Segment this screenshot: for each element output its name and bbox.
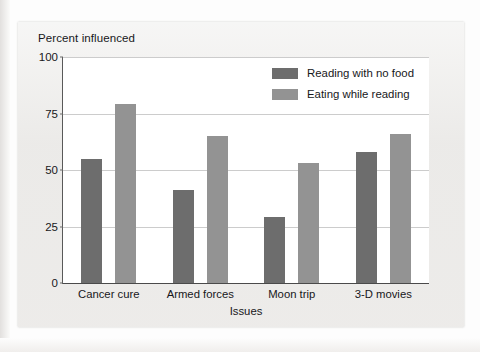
y-tick-label: 100 xyxy=(39,51,58,63)
y-tick-mark xyxy=(60,170,63,171)
y-tick-mark xyxy=(60,113,63,114)
x-category-label: Moon trip xyxy=(268,288,315,300)
legend-color-swatch xyxy=(272,68,298,79)
scanned-page: Percent influenced 0255075100 Cancer cur… xyxy=(0,0,480,352)
legend-label: Eating while reading xyxy=(307,88,410,100)
chart-figure-panel: Percent influenced 0255075100 Cancer cur… xyxy=(18,22,464,327)
x-category-label: Cancer cure xyxy=(78,288,140,300)
x-axis-title: Issues xyxy=(63,305,429,317)
x-category-label: Armed forces xyxy=(167,288,234,300)
bar xyxy=(207,136,228,283)
bar xyxy=(264,217,285,283)
bar xyxy=(390,134,411,283)
chart-legend: Reading with no foodEating while reading xyxy=(272,67,414,100)
y-tick-label: 25 xyxy=(45,221,58,233)
gridline xyxy=(63,57,429,58)
bar xyxy=(81,159,102,283)
y-axis-title: Percent influenced xyxy=(38,32,135,44)
y-tick-mark xyxy=(60,283,63,284)
x-category-label: 3-D movies xyxy=(355,288,412,300)
y-tick-mark xyxy=(60,57,63,58)
bar xyxy=(173,190,194,283)
bar xyxy=(356,152,377,283)
y-tick-mark xyxy=(60,226,63,227)
legend-color-swatch xyxy=(272,89,298,100)
y-tick-label: 0 xyxy=(52,277,58,289)
page-edge-shadow-bottom xyxy=(0,338,480,352)
bar xyxy=(298,163,319,283)
page-edge-shadow-left xyxy=(0,0,10,352)
legend-item: Reading with no food xyxy=(272,67,414,79)
legend-item: Eating while reading xyxy=(272,88,414,100)
y-tick-label: 50 xyxy=(45,164,58,176)
legend-label: Reading with no food xyxy=(307,67,414,79)
bar xyxy=(115,104,136,283)
y-tick-label: 75 xyxy=(45,108,58,120)
